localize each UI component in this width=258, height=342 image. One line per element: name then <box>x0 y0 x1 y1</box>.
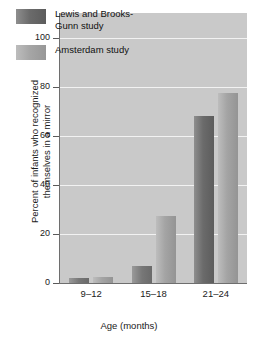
legend-label-lewis-line2: Gunn study <box>55 20 133 32</box>
gridline-80 <box>60 87 247 88</box>
x-axis-title: Age (months) <box>0 320 258 331</box>
y-tick-label-60: 60 <box>40 131 50 140</box>
y-tick-label-80: 80 <box>40 82 50 91</box>
y-tick-40 <box>53 185 59 186</box>
y-tick-60 <box>53 136 59 137</box>
x-axis-line <box>59 283 247 284</box>
y-tick-label-40: 40 <box>40 180 50 189</box>
x-tick-label-2: 21–24 <box>185 289 247 299</box>
y-tick-80 <box>53 87 59 88</box>
y-tick-20 <box>53 234 59 235</box>
bar-chart-figure: 020406080100 9–1215–1821–24 Percent of i… <box>0 0 258 342</box>
y-tick-label-20: 20 <box>40 229 50 238</box>
legend-label-lewis: Lewis and Brooks-Gunn study <box>55 8 133 31</box>
y-tick-0 <box>53 283 59 284</box>
legend-item-lewis: Lewis and Brooks-Gunn study <box>16 8 133 31</box>
legend-label-amsterdam: Amsterdam study <box>55 44 129 56</box>
bar-amsterdam-1 <box>156 216 176 284</box>
legend-label-lewis-line1: Lewis and Brooks- <box>55 8 133 20</box>
bar-lewis-2 <box>194 116 214 283</box>
legend-swatch-lewis-icon <box>16 9 46 24</box>
chart-legend: Lewis and Brooks-Gunn study Amsterdam st… <box>16 8 133 73</box>
y-tick-label-0: 0 <box>45 278 50 287</box>
x-tick-label-0: 9–12 <box>60 289 122 299</box>
x-tick-label-1: 15–18 <box>122 289 184 299</box>
bar-lewis-1 <box>132 266 152 283</box>
legend-item-amsterdam: Amsterdam study <box>16 44 133 60</box>
legend-swatch-amsterdam-icon <box>16 45 46 60</box>
bar-amsterdam-2 <box>218 93 238 283</box>
